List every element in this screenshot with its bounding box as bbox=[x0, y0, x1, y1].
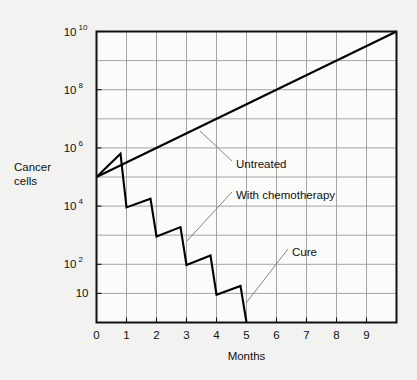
x-tick-label: 1 bbox=[123, 329, 129, 341]
y-tick-mantissa: 10 bbox=[64, 26, 77, 38]
x-axis-title: Months bbox=[228, 350, 266, 362]
annotation-label: Cure bbox=[292, 246, 317, 258]
y-tick-exponent: 8 bbox=[79, 81, 84, 90]
y-tick-mantissa: 10 bbox=[64, 200, 77, 212]
cancer-cells-log-chart: 0123456789 101010810610410210 UntreatedW… bbox=[0, 0, 417, 380]
x-tick-label: 3 bbox=[183, 329, 189, 341]
y-tick-mantissa: 10 bbox=[64, 258, 77, 270]
figure-container: 0123456789 101010810610410210 UntreatedW… bbox=[0, 0, 417, 380]
y-axis-title-line2: cells bbox=[14, 175, 37, 187]
x-tick-label: 5 bbox=[243, 329, 249, 341]
y-tick-exponent: 10 bbox=[79, 23, 88, 32]
x-tick-label: 6 bbox=[273, 329, 279, 341]
y-axis-title-line1: Cancer bbox=[14, 161, 51, 173]
x-tick-label: 7 bbox=[303, 329, 309, 341]
annotation-label: With chemotherapy bbox=[236, 189, 335, 201]
annotation-label: Untreated bbox=[236, 158, 287, 170]
x-tick-label: 2 bbox=[153, 329, 159, 341]
y-tick-mantissa: 10 bbox=[76, 287, 89, 299]
y-tick-mantissa: 10 bbox=[64, 84, 77, 96]
x-tick-label: 4 bbox=[213, 329, 220, 341]
y-tick-exponent: 6 bbox=[79, 139, 84, 148]
y-tick-mantissa: 10 bbox=[64, 142, 77, 154]
x-tick-label: 0 bbox=[93, 329, 99, 341]
x-tick-label: 9 bbox=[363, 329, 369, 341]
y-tick-exponent: 4 bbox=[79, 197, 84, 206]
x-tick-label: 8 bbox=[333, 329, 339, 341]
y-tick-label: 10 bbox=[76, 287, 89, 299]
y-tick-exponent: 2 bbox=[79, 255, 84, 264]
